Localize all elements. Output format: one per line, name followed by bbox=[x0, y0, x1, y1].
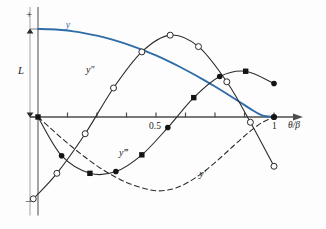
endpoint-marker bbox=[271, 114, 277, 120]
markers-yprimeprimeprime bbox=[113, 169, 119, 175]
markers-yprimeprime bbox=[167, 32, 173, 38]
plus-sign-label: + bbox=[26, 8, 32, 20]
markers-yprimeprimeprime bbox=[165, 125, 171, 131]
markers-yprimeprime bbox=[247, 119, 253, 125]
markers-yprimeprimeprime bbox=[243, 69, 248, 74]
amplitude-label: L bbox=[18, 65, 24, 76]
markers-yprimeprimeprime bbox=[271, 81, 277, 87]
curve-label-y: y bbox=[66, 19, 70, 30]
markers-yprimeprimeprime bbox=[139, 152, 144, 157]
curve-label-y-triple-prime: y‴ bbox=[119, 147, 128, 158]
markers-yprimeprime bbox=[82, 131, 88, 137]
curve-label-y-double-prime: y″ bbox=[86, 64, 95, 75]
markers-yprimeprime bbox=[271, 163, 277, 169]
markers-yprimeprimeprime bbox=[191, 95, 196, 100]
markers-yprimeprime bbox=[195, 44, 201, 50]
minus-sign-label: − bbox=[25, 195, 31, 207]
markers-yprimeprime bbox=[224, 79, 230, 85]
markers-yprimeprime bbox=[139, 49, 145, 55]
markers-yprimeprime bbox=[54, 170, 60, 176]
markers-yprimeprimeprime bbox=[217, 74, 223, 80]
markers-yprimeprimeprime bbox=[35, 114, 40, 119]
curve-y bbox=[38, 29, 274, 117]
markers-yprimeprimeprime bbox=[59, 153, 65, 159]
x-tick-label-0p5: 0.5 bbox=[149, 121, 161, 131]
x-tick-label-1: 1 bbox=[272, 121, 277, 131]
x-axis-title: θ/β bbox=[288, 120, 300, 130]
curve-label-y-prime: y′ bbox=[199, 168, 206, 179]
markers-yprimeprimeprime bbox=[87, 171, 92, 176]
chart-svg bbox=[0, 0, 326, 229]
figure-canvas: +−L0.51θ/βyy″y‴y′ bbox=[0, 0, 326, 229]
markers-yprimeprime bbox=[111, 85, 117, 91]
